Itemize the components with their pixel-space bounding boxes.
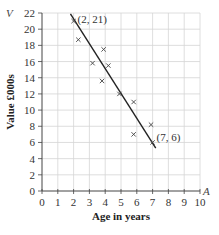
y-tick-label: 6 xyxy=(30,136,36,148)
x-tick-label: 1 xyxy=(55,196,61,208)
data-point-x-marker xyxy=(106,63,110,67)
scatter-chart: 0246810121416182022 012345678910 (2, 21)… xyxy=(0,0,219,235)
point-annotation: (7, 6) xyxy=(157,131,181,144)
y-tick-label: 14 xyxy=(24,72,36,84)
y-tick-label: 4 xyxy=(30,153,36,165)
x-tick-label: 4 xyxy=(102,196,108,208)
x-tick-labels: 012345678910 xyxy=(39,196,206,208)
y-tick-label: 12 xyxy=(24,88,35,100)
x-tick-label: 3 xyxy=(87,196,93,208)
x-tick-label: 6 xyxy=(134,196,140,208)
x-tick-label: 7 xyxy=(150,196,156,208)
y-tick-labels: 0246810121416182022 xyxy=(24,7,36,197)
point-annotation: (2, 21) xyxy=(78,13,108,26)
x-tick-label: 2 xyxy=(71,196,77,208)
axes xyxy=(38,13,200,194)
x-tick-label: 8 xyxy=(166,196,172,208)
y-tick-label: 16 xyxy=(24,56,36,68)
y-tick-label: 2 xyxy=(30,169,36,181)
data-point-x-marker xyxy=(76,38,80,42)
x-tick-label: 9 xyxy=(181,196,187,208)
grid xyxy=(42,13,200,191)
y-axis-title: Value £000s xyxy=(4,74,16,130)
y-tick-label: 20 xyxy=(24,23,36,35)
x-tick-label: 0 xyxy=(39,196,45,208)
y-tick-label: 0 xyxy=(30,185,36,197)
data-point-x-marker xyxy=(131,100,135,104)
data-point-x-marker xyxy=(131,132,135,136)
y-variable-label: V xyxy=(6,7,14,19)
annotations: (2, 21)(7, 6) xyxy=(78,13,181,144)
y-tick-label: 22 xyxy=(24,7,35,19)
data-point-x-marker xyxy=(100,79,104,83)
line-of-best-fit xyxy=(70,14,155,148)
y-tick-label: 18 xyxy=(24,39,36,51)
y-tick-label: 10 xyxy=(24,104,36,116)
x-axis-title: Age in years xyxy=(92,210,151,222)
x-tick-label: 10 xyxy=(195,196,207,208)
y-tick-label: 8 xyxy=(30,120,36,132)
x-variable-label: A xyxy=(202,185,210,197)
x-tick-label: 5 xyxy=(118,196,124,208)
